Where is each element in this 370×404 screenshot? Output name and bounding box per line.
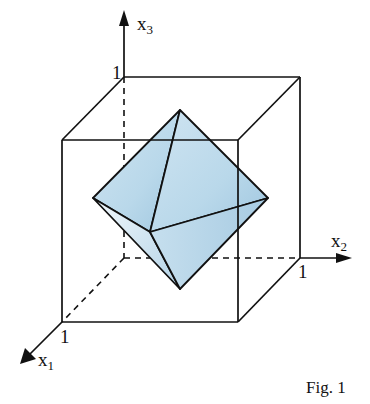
x3-tick-label: 1 (112, 63, 122, 82)
x3-axis-label: x3 (137, 14, 153, 36)
figure-caption: Fig. 1 (306, 379, 346, 396)
figure-canvas (0, 0, 370, 404)
x2-tick-label: 1 (298, 262, 308, 281)
x2-arrow-icon (336, 253, 352, 263)
x1-tick-label: 1 (60, 327, 70, 346)
x1-axis-label: x1 (38, 350, 54, 372)
x2-axis-label: x2 (331, 231, 347, 253)
x3-arrow-icon (119, 10, 129, 26)
